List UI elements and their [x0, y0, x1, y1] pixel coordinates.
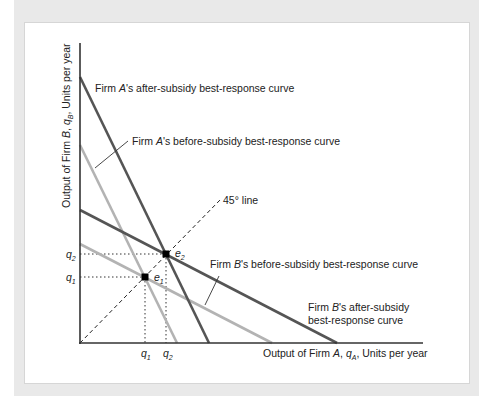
firm-a-after-subsidy-curve — [80, 77, 209, 343]
equilibrium-e1-point — [142, 274, 149, 281]
firm-b-after-subsidy-label: Firm B's after-subsidy — [308, 301, 410, 313]
y-axis-label: Output of Firm B, qB, Units per year — [60, 43, 74, 208]
b-before-leader-line — [205, 276, 219, 305]
x-tick-q1: q1 — [141, 347, 151, 361]
firm-b-after-subsidy-curve — [80, 210, 337, 343]
best-response-diagram: Firm A's after-subsidy best-response cur… — [0, 0, 494, 403]
firm-b-after-subsidy-label-line2: best-response curve — [308, 314, 403, 326]
y-tick-q2: q2 — [66, 248, 76, 262]
firm-a-before-subsidy-label: Firm A's before-subsidy best-response cu… — [132, 135, 340, 147]
x-axis-label: Output of Firm A, qA, Units per year — [263, 347, 428, 361]
firm-b-before-subsidy-label: Firm B's before-subsidy best-response cu… — [210, 258, 418, 270]
45-degree-line-label: 45° line — [223, 194, 258, 206]
x-tick-q2: q2 — [163, 347, 173, 361]
y-tick-q1: q1 — [66, 271, 76, 285]
equilibrium-e1-label: e1 — [154, 271, 164, 285]
equilibrium-e2-label: e2 — [175, 247, 185, 261]
firm-a-after-subsidy-label: Firm A's after-subsidy best-response cur… — [95, 82, 294, 94]
equilibrium-e2-point — [163, 251, 170, 258]
